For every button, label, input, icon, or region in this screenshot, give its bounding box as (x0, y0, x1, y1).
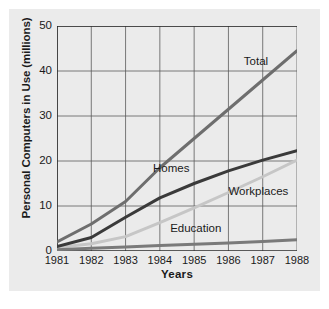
x-tick-label: 1988 (275, 255, 319, 266)
y-tick-label: 30 (26, 110, 52, 122)
series-label-education: Education (170, 222, 221, 234)
chart-figure: Personal Computers in Use (millions) 010… (0, 0, 329, 309)
series-label-workplaces: Workplaces (228, 185, 288, 197)
y-tick-label: 10 (26, 200, 52, 212)
series-lines (57, 51, 297, 250)
series-line-total (57, 51, 297, 242)
y-tick-label: 20 (26, 155, 52, 167)
y-tick-label: 50 (26, 20, 52, 32)
x-axis-label: Years (57, 268, 297, 280)
series-label-homes: Homes (153, 162, 189, 174)
series-label-total: Total (244, 55, 268, 67)
y-tick-label: 40 (26, 65, 52, 77)
